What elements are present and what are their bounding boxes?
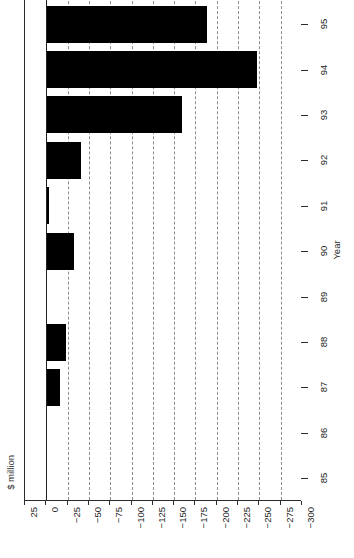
value-tick	[301, 501, 302, 505]
value-tick	[67, 501, 68, 505]
value-tick	[258, 501, 259, 505]
value-tick-label: 0	[49, 507, 60, 512]
value-tick-label: −75	[113, 507, 124, 523]
value-tick-label: −275	[284, 507, 295, 528]
value-tick	[109, 501, 110, 505]
category-tick-label: 86	[318, 428, 329, 439]
value-tick	[88, 501, 89, 505]
category-tick	[301, 70, 308, 71]
category-tick	[301, 160, 308, 161]
bar	[46, 233, 74, 270]
category-tick	[301, 342, 308, 343]
category-tick	[301, 206, 308, 207]
bar	[46, 324, 66, 361]
value-tick	[24, 501, 25, 505]
category-tick-label: 94	[318, 64, 329, 75]
category-tick	[301, 387, 308, 388]
value-tick-label: −225	[241, 507, 252, 528]
value-tick	[216, 501, 217, 505]
value-tick-label: 25	[28, 507, 39, 518]
category-tick-label: 89	[318, 291, 329, 302]
category-tick	[301, 433, 308, 434]
chart-canvas: 250−25−50−75−100−125−150−175−200−225−250…	[0, 0, 354, 558]
category-tick-label: 93	[318, 110, 329, 121]
value-tick-label: −50	[92, 507, 103, 523]
category-tick-label: 92	[318, 155, 329, 166]
value-tick-label: −150	[177, 507, 188, 528]
value-axis-title: $ million	[5, 455, 16, 490]
bar	[46, 6, 207, 43]
value-tick-label: −200	[220, 507, 231, 528]
category-tick-label: 87	[318, 382, 329, 393]
category-tick	[301, 24, 308, 25]
category-tick-label: 85	[318, 473, 329, 484]
category-tick-label: 91	[318, 200, 329, 211]
category-tick	[301, 251, 308, 252]
value-tick	[45, 501, 46, 505]
bar	[46, 142, 81, 179]
value-tick	[152, 501, 153, 505]
value-tick	[173, 501, 174, 505]
plot-inner	[25, 0, 301, 500]
category-tick-label: 90	[318, 246, 329, 257]
category-tick	[301, 115, 308, 116]
value-tick	[194, 501, 195, 505]
zero-axis-line	[46, 0, 47, 500]
value-tick-label: −250	[262, 507, 273, 528]
value-tick	[131, 501, 132, 505]
value-tick-label: −300	[305, 507, 316, 528]
value-tick	[237, 501, 238, 505]
value-tick-label: −175	[198, 507, 209, 528]
value-axis: 250−25−50−75−100−125−150−175−200−225−250…	[24, 501, 302, 558]
plot-area	[24, 0, 301, 501]
category-axis: 969594939291908988878685	[301, 0, 354, 501]
category-tick	[301, 478, 308, 479]
category-axis-title: Year	[331, 240, 342, 259]
gridline	[259, 0, 260, 500]
bar	[46, 51, 257, 88]
value-tick	[280, 501, 281, 505]
value-tick-label: −25	[71, 507, 82, 523]
category-tick	[301, 297, 308, 298]
bar	[46, 96, 182, 133]
category-tick-label: 88	[318, 337, 329, 348]
gridline	[281, 0, 282, 500]
category-tick-label: 95	[318, 19, 329, 30]
value-tick-label: −100	[135, 507, 146, 528]
value-tick-label: −125	[156, 507, 167, 528]
bar	[46, 369, 60, 406]
